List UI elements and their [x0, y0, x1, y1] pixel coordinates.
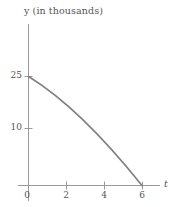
data-curve	[29, 77, 143, 186]
x-tick-label-0: 0	[20, 190, 34, 200]
y-axis-title: y (in thousands)	[24, 5, 103, 16]
x-tick-label-2: 2	[59, 190, 73, 200]
x-tick-label-6: 6	[135, 190, 149, 200]
x-axis-title: t	[164, 178, 168, 189]
y-tick-label-25: 25	[6, 70, 22, 80]
plot-area	[0, 0, 179, 207]
graph-figure: y (in thousands) t 25 10 0 2 4 6	[0, 0, 179, 207]
y-tick-label-10: 10	[6, 122, 22, 132]
x-tick-label-4: 4	[97, 190, 111, 200]
